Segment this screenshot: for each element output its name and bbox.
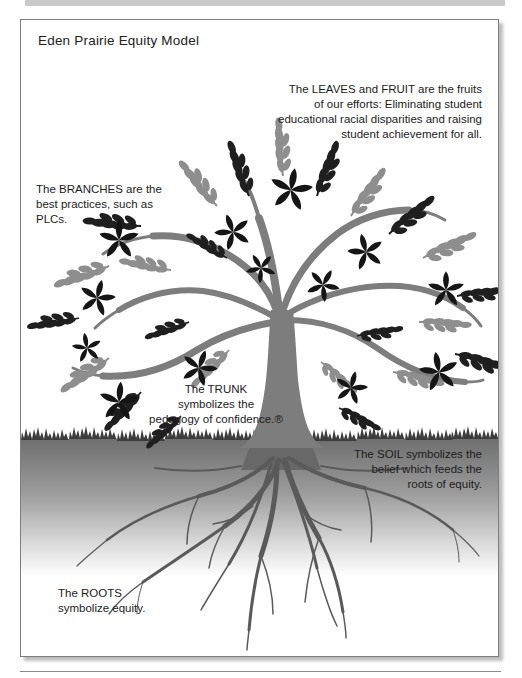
roots-caption-line: symbolize equity. xyxy=(58,601,145,616)
leaves-fruit-caption-line: educational racial disparities and raisi… xyxy=(278,112,482,127)
soil-caption-line: roots of equity. xyxy=(354,477,482,492)
trunk-caption-line: The TRUNK xyxy=(121,382,311,397)
leaves-fruit-caption-line: student achievement for all. xyxy=(278,127,482,142)
trunk-caption: The TRUNK symbolizes the pedagogy of con… xyxy=(121,382,311,427)
branches-caption: The BRANCHES are the best practices, suc… xyxy=(36,182,162,227)
roots-caption: The ROOTS symbolize equity. xyxy=(58,586,145,616)
leaves-fruit-caption-line: of our efforts: Eliminating student xyxy=(278,97,482,112)
figure-title: Eden Prairie Equity Model xyxy=(38,33,199,48)
branches-caption-line: The BRANCHES are the xyxy=(36,182,162,197)
soil-caption: The SOIL symbolizes the belief which fee… xyxy=(354,447,482,492)
soil-caption-line: The SOIL symbolizes the xyxy=(354,447,482,462)
branches-caption-line: PLCs. xyxy=(36,212,162,227)
soil-caption-line: belief which feeds the xyxy=(354,462,482,477)
branches-caption-line: best practices, such as xyxy=(36,197,162,212)
leaves-fruit-caption-line: The LEAVES and FRUIT are the fruits xyxy=(278,82,482,97)
page-top-rule xyxy=(25,0,505,6)
trunk-caption-line: symbolizes the xyxy=(121,397,311,412)
trunk-caption-line: pedagogy of confidence.® xyxy=(121,412,311,427)
figure-frame: Eden Prairie Equity Model The LEAVES and… xyxy=(20,19,499,657)
leaves-fruit-caption: The LEAVES and FRUIT are the fruits of o… xyxy=(278,82,482,142)
roots-caption-line: The ROOTS xyxy=(58,586,145,601)
page-bottom-rule xyxy=(20,671,501,672)
